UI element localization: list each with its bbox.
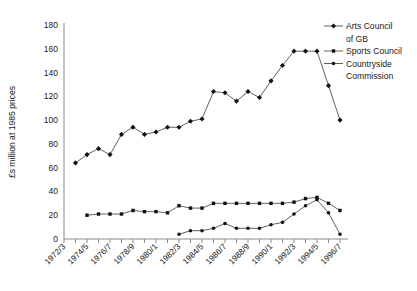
legend-label: Countryside bbox=[346, 59, 392, 69]
data-point-marker bbox=[200, 206, 203, 209]
data-point-marker bbox=[199, 116, 204, 121]
data-point-marker bbox=[292, 212, 296, 216]
data-point-marker bbox=[246, 202, 249, 205]
data-point-marker bbox=[188, 119, 193, 124]
y-tick-label: 140 bbox=[44, 68, 58, 78]
data-point-marker bbox=[223, 222, 227, 226]
data-point-marker bbox=[337, 118, 342, 123]
data-point-marker bbox=[108, 212, 111, 215]
data-point-marker bbox=[97, 212, 100, 215]
legend-label-continued: Commission bbox=[346, 71, 393, 81]
x-tick-label: 1988/9 bbox=[226, 241, 251, 266]
data-point-marker bbox=[177, 204, 180, 207]
data-point-marker bbox=[332, 49, 335, 52]
data-point-marker bbox=[314, 49, 319, 54]
y-tick-label: 80 bbox=[49, 139, 59, 149]
x-tick-label: 1974/5 bbox=[65, 241, 90, 266]
x-tick-label: 1982/3 bbox=[157, 241, 182, 266]
data-point-marker bbox=[154, 210, 157, 213]
data-point-marker bbox=[96, 146, 101, 151]
y-tick-label: 120 bbox=[44, 91, 58, 101]
data-point-marker bbox=[235, 202, 238, 205]
x-tick-label: 1986/7 bbox=[203, 241, 228, 266]
x-tick-label: 1972/3 bbox=[42, 241, 67, 266]
data-point-marker bbox=[223, 202, 226, 205]
y-axis-ticks-group: 020406080100120140160180 bbox=[44, 20, 58, 244]
legend-label-continued: of GB bbox=[346, 34, 368, 44]
data-point-marker bbox=[107, 152, 112, 157]
data-point-marker bbox=[165, 125, 170, 130]
legend-group: Arts Councilof GBSports CouncilCountrysi… bbox=[324, 21, 402, 81]
data-point-marker bbox=[281, 202, 284, 205]
series-line bbox=[76, 51, 341, 163]
data-point-marker bbox=[327, 202, 330, 205]
x-axis-ticks-group: 1972/31974/51976/71978/91980/11982/31984… bbox=[42, 239, 343, 266]
data-point-marker bbox=[189, 229, 193, 233]
data-point-marker bbox=[246, 227, 250, 231]
x-tick-label: 1994/5 bbox=[295, 241, 320, 266]
series-2 bbox=[85, 196, 341, 217]
data-point-marker bbox=[177, 232, 181, 236]
data-point-marker bbox=[338, 209, 341, 212]
data-point-marker bbox=[120, 212, 123, 215]
data-point-marker bbox=[269, 223, 273, 227]
data-point-marker bbox=[304, 204, 308, 208]
data-point-marker bbox=[303, 49, 308, 54]
data-point-marker bbox=[212, 227, 216, 231]
data-point-marker bbox=[326, 83, 331, 88]
series-1 bbox=[73, 49, 343, 166]
data-point-marker bbox=[142, 132, 147, 137]
data-point-marker bbox=[130, 125, 135, 130]
y-tick-label: 40 bbox=[49, 186, 59, 196]
data-point-marker bbox=[292, 200, 295, 203]
data-point-marker bbox=[85, 214, 88, 217]
data-point-marker bbox=[143, 210, 146, 213]
y-tick-label: 160 bbox=[44, 44, 58, 54]
data-point-marker bbox=[281, 221, 285, 225]
data-point-marker bbox=[331, 23, 336, 28]
y-tick-label: 0 bbox=[53, 234, 58, 244]
data-point-marker bbox=[200, 229, 204, 233]
data-point-marker bbox=[258, 227, 262, 231]
y-tick-label: 20 bbox=[49, 210, 59, 220]
data-point-marker bbox=[332, 62, 336, 66]
chart-svg: £s million at 1985 prices 02040608010012… bbox=[0, 0, 417, 291]
data-series-group bbox=[73, 49, 343, 236]
x-tick-label: 1992/3 bbox=[272, 241, 297, 266]
data-point-marker bbox=[235, 227, 239, 231]
data-point-marker bbox=[119, 132, 124, 137]
data-point-marker bbox=[257, 95, 262, 100]
legend-label: Arts Council bbox=[346, 21, 392, 31]
data-point-marker bbox=[211, 89, 216, 94]
x-tick-label: 1980/1 bbox=[134, 241, 159, 266]
y-axis-title: £s million at 1985 prices bbox=[7, 86, 17, 178]
data-point-marker bbox=[338, 232, 342, 236]
series-line bbox=[87, 197, 340, 215]
y-axis-title-group: £s million at 1985 prices bbox=[7, 86, 17, 178]
data-point-marker bbox=[315, 198, 319, 202]
data-point-marker bbox=[131, 209, 134, 212]
x-tick-label: 1978/9 bbox=[111, 241, 136, 266]
data-point-marker bbox=[189, 206, 192, 209]
x-tick-label: 1990/1 bbox=[249, 241, 274, 266]
data-point-marker bbox=[258, 202, 261, 205]
x-tick-label: 1984/5 bbox=[180, 241, 205, 266]
data-point-marker bbox=[153, 129, 158, 134]
x-tick-label: 1976/7 bbox=[88, 241, 113, 266]
data-point-marker bbox=[269, 202, 272, 205]
data-point-marker bbox=[212, 202, 215, 205]
x-tick-label: 1996/7 bbox=[318, 241, 343, 266]
data-point-marker bbox=[327, 211, 331, 215]
data-point-marker bbox=[304, 197, 307, 200]
legend-label: Sports Council bbox=[346, 46, 402, 56]
data-point-marker bbox=[166, 211, 169, 214]
line-chart: £s million at 1985 prices 02040608010012… bbox=[0, 0, 417, 291]
data-point-marker bbox=[176, 125, 181, 130]
y-tick-label: 100 bbox=[44, 115, 58, 125]
y-tick-label: 180 bbox=[44, 20, 58, 30]
y-tick-label: 60 bbox=[49, 163, 59, 173]
